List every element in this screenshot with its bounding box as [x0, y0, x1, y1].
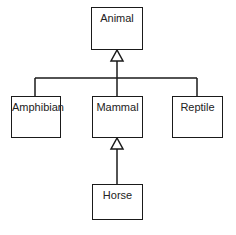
class-amphibian-name: Amphibian	[12, 101, 60, 113]
class-animal[interactable]: Animal	[91, 7, 143, 50]
class-animal-name: Animal	[92, 12, 142, 24]
class-horse[interactable]: Horse	[92, 184, 143, 220]
generalization-arrowhead-animal	[111, 50, 123, 61]
class-reptile[interactable]: Reptile	[172, 96, 223, 138]
class-amphibian[interactable]: Amphibian	[11, 96, 61, 138]
class-reptile-name: Reptile	[173, 101, 222, 113]
class-mammal-name: Mammal	[93, 101, 142, 113]
class-horse-name: Horse	[93, 189, 142, 201]
generalization-arrowhead-mammal	[111, 138, 123, 149]
class-mammal[interactable]: Mammal	[92, 96, 143, 138]
